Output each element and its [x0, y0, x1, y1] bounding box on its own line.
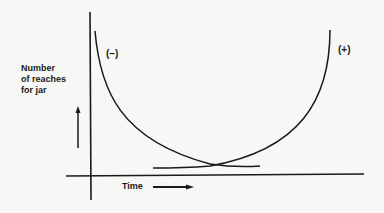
up-arrow-icon — [76, 106, 81, 148]
x-axis — [66, 174, 364, 176]
y-axis-label-line3: for jar — [21, 85, 66, 96]
negative-curve-label: (–) — [106, 48, 118, 59]
right-arrow-icon — [153, 185, 194, 190]
positive-curve — [153, 30, 330, 168]
diagram-canvas: Number of reaches for jar (–) (+) Time — [0, 0, 384, 213]
negative-curve — [95, 31, 260, 167]
y-axis-label-line2: of reaches — [21, 74, 66, 85]
x-axis-label: Time — [122, 181, 143, 192]
y-axis-label: Number of reaches for jar — [21, 63, 66, 96]
positive-curve-label: (+) — [338, 44, 351, 55]
y-axis-label-line1: Number — [21, 63, 66, 74]
diagram-plot — [0, 0, 384, 213]
y-axis — [90, 12, 91, 200]
